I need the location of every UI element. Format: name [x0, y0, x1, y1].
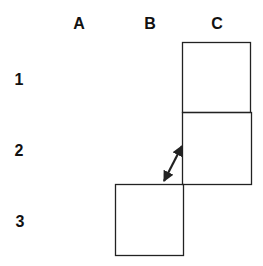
- cell-b3: [116, 185, 184, 256]
- grid-diagram: [0, 0, 263, 266]
- double-arrow-icon: [164, 146, 182, 181]
- cell-c1: [183, 43, 251, 113]
- cell-c2: [183, 113, 252, 185]
